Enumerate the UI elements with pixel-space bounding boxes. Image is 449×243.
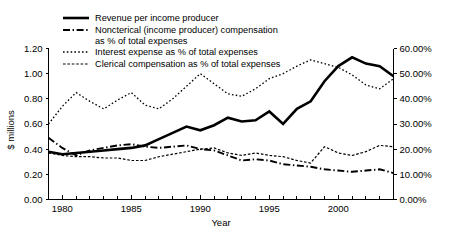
y-axis-title: $ millions	[5, 110, 16, 150]
y-axis-tick-label: 0.20	[24, 169, 43, 180]
y2-axis-tick-label: 50.00%	[400, 68, 433, 79]
y2-axis-tick-label: 10.00%	[400, 169, 433, 180]
series-line-1	[49, 138, 394, 173]
legend-label-1-line2: as % of total expenses	[95, 36, 188, 46]
chart-container: 0.000.200.400.600.801.001.200.00%10.00%2…	[0, 0, 449, 243]
series-line-0	[49, 57, 394, 154]
x-axis-tick-label: 1995	[259, 203, 280, 214]
x-axis-tick-label: 1980	[52, 203, 73, 214]
x-axis-title: Year	[211, 217, 230, 228]
legend-label-0: Revenue per income producer	[95, 13, 219, 23]
y-axis-tick-label: 0.00	[24, 194, 43, 205]
y2-axis-tick-label: 20.00%	[400, 144, 433, 155]
y2-axis-tick-label: 40.00%	[400, 93, 433, 104]
x-axis-tick-label: 1985	[121, 203, 142, 214]
x-axis-tick-label: 1990	[190, 203, 211, 214]
y2-axis-tick-label: 60.00%	[400, 43, 433, 54]
y-axis-tick-label: 0.40	[24, 144, 43, 155]
legend-label-2: Interest expense as % of total expenses	[95, 47, 258, 57]
y-axis-tick-label: 0.60	[24, 118, 43, 129]
line-chart: 0.000.200.400.600.801.001.200.00%10.00%2…	[0, 0, 449, 243]
x-axis-tick-label: 2000	[328, 203, 349, 214]
y2-axis-tick-label: 0.00%	[400, 194, 427, 205]
y-axis-tick-label: 0.80	[24, 93, 43, 104]
y-axis-tick-label: 1.20	[24, 43, 43, 54]
legend-label-1: Noncterical (income producer) compensati…	[95, 25, 278, 35]
axis-lines-left-bottom	[49, 49, 394, 200]
series-line-2	[49, 60, 394, 124]
y2-axis-tick-label: 30.00%	[400, 118, 433, 129]
y-axis-tick-label: 1.00	[24, 68, 43, 79]
legend-label-3: Clerical compensation as % of total expe…	[95, 59, 281, 69]
